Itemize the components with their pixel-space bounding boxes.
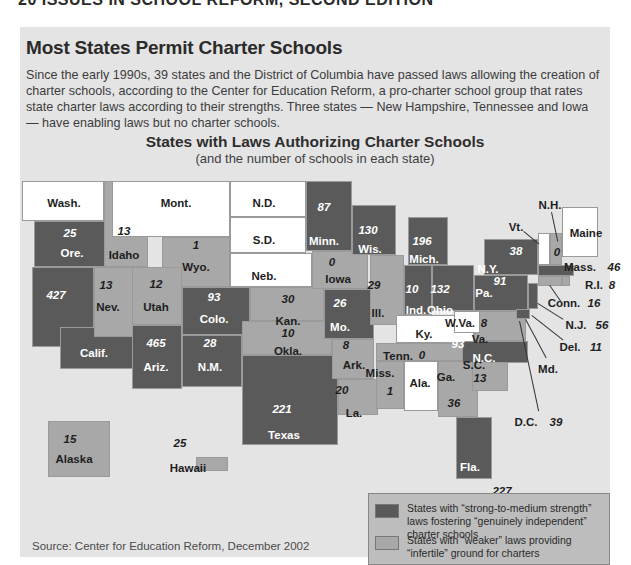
count-ok: 10 <box>282 327 295 339</box>
count-tx: 221 <box>272 403 291 415</box>
sidebar-panel: Most States Permit Charter Schools Since… <box>20 27 610 557</box>
count-ar: 8 <box>343 339 349 351</box>
count-hi: 25 <box>174 437 187 449</box>
count-oh: 132 <box>430 283 449 295</box>
count-wi: 130 <box>358 224 377 236</box>
legend-swatch-weak <box>375 536 399 550</box>
count-mo: 26 <box>334 297 347 309</box>
count-ms: 1 <box>387 385 393 397</box>
count-mn: 87 <box>318 201 331 213</box>
source-note: Source: Center for Education Reform, Dec… <box>32 540 309 552</box>
label-dc: D.C. <box>515 416 538 428</box>
count-ny: 38 <box>510 245 523 257</box>
label-nc: N.C. <box>473 352 496 364</box>
label-co: Colo. <box>200 313 229 325</box>
count-az: 465 <box>146 337 165 349</box>
label-nm: N.M. <box>198 361 222 373</box>
label-hi: Hawaii <box>170 462 206 474</box>
label-de: Del. <box>559 341 580 353</box>
label-az: Ariz. <box>144 361 169 373</box>
count-ri: 8 <box>609 279 615 291</box>
label-va: Va. <box>472 333 489 345</box>
count-or: 25 <box>64 227 77 239</box>
count-de: 11 <box>590 341 602 353</box>
label-ar: Ark. <box>343 359 365 371</box>
leader-line-dc <box>519 321 539 411</box>
count-in: 10 <box>406 283 419 295</box>
legend-swatch-strong <box>375 504 399 518</box>
state-ut <box>132 267 182 325</box>
label-wi: Wis. <box>358 243 382 255</box>
page-running-header: 20 ISSUES IN SCHOOL REFORM, SECOND EDITI… <box>18 0 433 9</box>
label-pa: Pa. <box>475 287 492 299</box>
state-az <box>132 325 182 389</box>
legend-item-weak: States with “weaker” laws providing “inf… <box>375 534 607 560</box>
label-mi: Mich. <box>409 253 438 265</box>
label-ma: Mass. <box>564 261 596 273</box>
count-dc: 39 <box>550 416 563 428</box>
count-va: 8 <box>481 317 487 329</box>
count-ca: 427 <box>46 289 65 301</box>
state-nj <box>528 283 538 309</box>
count-wy: 1 <box>193 239 199 251</box>
count-co: 93 <box>208 291 221 303</box>
us-map: Wash. Ore. 25 Calif. 427 Idaho 13 Nev. 1… <box>20 27 610 557</box>
count-sc: 13 <box>474 372 487 384</box>
label-tn: Tenn. <box>383 350 413 362</box>
count-il: 29 <box>368 279 381 291</box>
label-ga: Ga. <box>437 371 456 383</box>
count-ga: 36 <box>448 397 461 409</box>
label-nj: N.J. <box>565 319 586 331</box>
count-ks: 30 <box>282 293 295 305</box>
label-ct: Conn. <box>548 297 581 309</box>
label-ok: Okla. <box>274 345 302 357</box>
label-oh: Ohio <box>427 304 453 316</box>
label-ak: Alaska <box>55 453 92 465</box>
legend-label-weak: States with “weaker” laws providing “inf… <box>407 534 607 560</box>
count-mi: 196 <box>412 235 431 247</box>
label-mt: Mont. <box>161 197 192 209</box>
label-wy: Wyo. <box>182 261 209 273</box>
label-or: Ore. <box>60 247 83 259</box>
map-legend: States with “strong-to-medium strength” … <box>368 493 610 565</box>
state-ri <box>562 276 570 286</box>
count-ut: 12 <box>150 278 163 290</box>
label-nh: N.H. <box>539 199 562 211</box>
label-nv: Nev. <box>96 301 119 313</box>
count-nm: 28 <box>204 337 217 349</box>
label-wa: Wash. <box>47 197 80 209</box>
count-ct: 16 <box>588 297 601 309</box>
count-ia: 0 <box>329 256 335 268</box>
count-id: 13 <box>118 225 131 237</box>
label-fl: Fla. <box>460 461 480 473</box>
label-ri: R.I. <box>585 279 603 291</box>
label-ny: N.Y. <box>477 263 498 275</box>
count-la: 20 <box>336 384 349 396</box>
state-ak <box>48 421 110 477</box>
label-al: Ala. <box>409 377 430 389</box>
label-nd: N.D. <box>253 197 276 209</box>
count-tn: 0 <box>419 349 425 361</box>
label-md: Md. <box>538 363 558 375</box>
count-ak: 15 <box>64 433 77 445</box>
leader-line-de <box>531 315 563 340</box>
label-me: Maine <box>570 227 603 239</box>
label-ks: Kan. <box>276 315 301 327</box>
state-md <box>516 309 530 319</box>
label-ne: Neb. <box>252 270 277 282</box>
label-ms: Miss. <box>366 367 395 379</box>
count-nc: 93 <box>452 338 465 350</box>
label-ia: Iowa <box>325 273 351 285</box>
label-sd: S.D. <box>253 234 275 246</box>
label-wv: W.Va. <box>445 317 475 329</box>
label-id: Idaho <box>109 249 140 261</box>
label-ut: Utah <box>143 301 169 313</box>
count-nh: 0 <box>554 246 560 258</box>
count-pa: 91 <box>494 275 507 287</box>
label-ca: Calif. <box>80 347 108 359</box>
count-ma: 46 <box>608 261 621 273</box>
label-mo: Mo. <box>330 321 350 333</box>
label-ky: Ky. <box>415 328 432 340</box>
label-mn: Minn. <box>309 235 339 247</box>
state-vt <box>538 233 550 265</box>
